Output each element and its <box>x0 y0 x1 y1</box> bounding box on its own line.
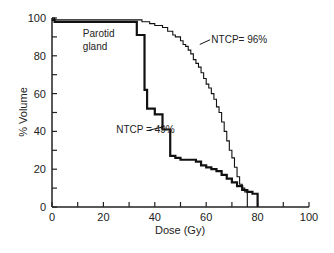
dose-volume-histogram-chart: 020406080100020406080100 ParotidglandNTC… <box>0 0 334 253</box>
y-axis-label: % Volume <box>17 87 29 137</box>
annotation-text: NTCP= 96% <box>211 34 267 45</box>
x-tick-label: 60 <box>200 211 212 223</box>
y-tick-label: 20 <box>34 163 46 175</box>
annotations: ParotidglandNTCP= 96%NTCP = 49% <box>83 28 267 135</box>
axes: 020406080100020406080100 <box>28 12 319 223</box>
x-tick-label: 40 <box>149 211 161 223</box>
x-axis-label: Dose (Gy) <box>155 224 205 236</box>
x-tick-label: 20 <box>97 211 109 223</box>
x-tick-label: 0 <box>49 211 55 223</box>
y-tick-label: 100 <box>28 12 46 24</box>
y-tick-label: 80 <box>34 50 46 62</box>
annotation-text: NTCP = 49% <box>116 124 175 135</box>
y-tick-label: 40 <box>34 125 46 137</box>
leader-line-ntcp-96 <box>200 40 210 45</box>
annotation-text: gland <box>83 41 107 52</box>
y-tick-label: 0 <box>40 201 46 213</box>
x-tick-label: 100 <box>300 211 318 223</box>
x-tick-label: 80 <box>251 211 263 223</box>
annotation-text: Parotid <box>83 28 115 39</box>
series-line-ntcp-96 <box>52 18 247 207</box>
y-tick-label: 60 <box>34 88 46 100</box>
